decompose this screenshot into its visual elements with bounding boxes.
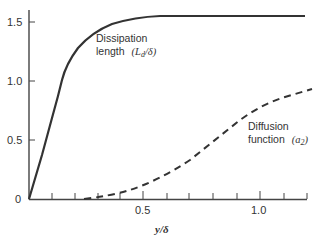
y-tick-label-0: 0 [15, 193, 21, 205]
diff-line2: function [248, 133, 285, 145]
diss-line2-wrap: length (Ld/δ) [96, 45, 157, 59]
diss-line2: length [96, 45, 125, 57]
y-tick-label-1.0: 1.0 [7, 75, 22, 87]
x-tick-label-1.0: 1.0 [251, 204, 266, 216]
diff-tail: ) [303, 134, 308, 146]
y-tick-label-1.5: 1.5 [7, 16, 22, 28]
y-ticks [29, 22, 35, 140]
diss-sym: (L [132, 46, 141, 58]
diff-line1: Diffusion [248, 120, 289, 132]
x-tick-label-0.5: 0.5 [135, 204, 150, 216]
dissipation-length-curve [29, 16, 305, 199]
chart: 0 0.5 1.0 1.5 0.5 1.0 y/δ Dissipation le… [0, 0, 318, 240]
diss-line1: Dissipation [96, 32, 148, 44]
diffusion-annotation: Diffusion function (a2) [248, 120, 308, 147]
y-tick-label-0.5: 0.5 [7, 134, 22, 146]
diss-tail: /δ) [144, 46, 157, 58]
diff-line2-wrap: function (a2) [248, 133, 308, 147]
dissipation-annotation: Dissipation length (Ld/δ) [96, 32, 157, 59]
x-axis-label: y/δ [153, 223, 169, 235]
diff-sym: (a [292, 134, 301, 146]
